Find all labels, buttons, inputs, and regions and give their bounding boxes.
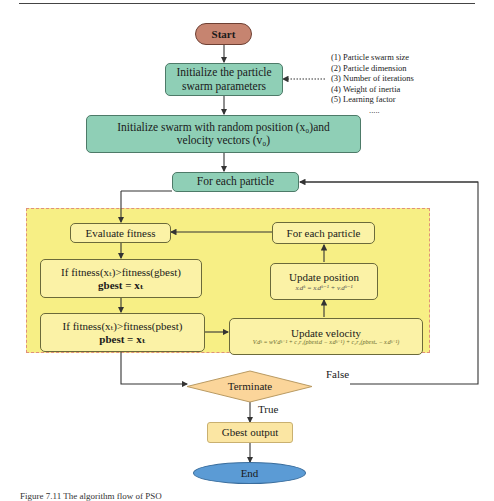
false-edge-label: False bbox=[326, 368, 349, 380]
init-parameters-line1: Initialize the particle bbox=[176, 66, 271, 79]
figure-caption: Figure 7.11 The algorithm flow of PSO bbox=[20, 491, 162, 501]
pbest-assign-label: pbest = xₜ bbox=[99, 333, 145, 346]
for-each-particle-outer-node: For each particle bbox=[172, 172, 299, 192]
end-label: End bbox=[241, 467, 259, 480]
init-parameters-line2: swarm parameters bbox=[182, 80, 266, 93]
parameter-item: (5) Learning factor bbox=[331, 94, 414, 105]
parameter-item: (2) Particle dimension bbox=[331, 63, 414, 74]
gbest-output-label: Gbest output bbox=[222, 426, 279, 439]
end-node: End bbox=[193, 462, 306, 484]
update-velocity-node: Update velocity Vᵢdᵏ = wVᵢdᵏ⁻¹ + c₁r₁(pb… bbox=[229, 318, 423, 355]
init-swarm-line1: Initialize swarm with random position (x… bbox=[117, 121, 330, 134]
init-swarm-line2: velocity vectors (v₀) bbox=[177, 134, 270, 147]
for-each-particle-outer-label: For each particle bbox=[197, 175, 274, 188]
gbest-condition-label: If fitness(xₜ)>fitness(gbest) bbox=[61, 266, 181, 279]
pbest-condition-node: If fitness(xₜ)>fitness(pbest) pbest = xₜ bbox=[40, 313, 205, 352]
for-each-particle-inner-label: For each particle bbox=[287, 227, 361, 240]
parameter-item: (4) Weight of inertia bbox=[331, 84, 414, 95]
parameter-item: (1) Particle swarm size bbox=[331, 52, 414, 63]
parameter-item: (3) Number of iterations bbox=[331, 73, 414, 84]
init-swarm-node: Initialize swarm with random position (x… bbox=[86, 115, 361, 153]
evaluate-fitness-label: Evaluate fitness bbox=[86, 227, 156, 240]
parameter-list: (1) Particle swarm size (2) Particle dim… bbox=[331, 52, 414, 116]
gbest-condition-node: If fitness(xₜ)>fitness(gbest) gbest = xₜ bbox=[40, 259, 202, 298]
parameter-ellipsis: ..... bbox=[331, 105, 414, 116]
start-label: Start bbox=[212, 28, 236, 41]
update-position-label: Update position bbox=[289, 271, 359, 284]
start-node: Start bbox=[195, 23, 252, 45]
update-velocity-formula: Vᵢdᵏ = wVᵢdᵏ⁻¹ + c₁r₁(pbestᵢd − xᵢdᵏ⁻¹) … bbox=[253, 339, 400, 346]
init-parameters-node: Initialize the particle swarm parameters bbox=[165, 63, 283, 96]
gbest-assign-label: gbest = xₜ bbox=[98, 279, 144, 292]
update-velocity-label: Update velocity bbox=[291, 327, 361, 340]
update-position-node: Update position xᵢdᵏ = xᵢdᵏ⁻¹ + vᵢdᵏ⁻¹ bbox=[270, 263, 378, 300]
gbest-output-node: Gbest output bbox=[207, 422, 293, 443]
evaluate-fitness-node: Evaluate fitness bbox=[70, 223, 171, 243]
for-each-particle-inner-node: For each particle bbox=[272, 222, 375, 244]
pbest-condition-label: If fitness(xₜ)>fitness(pbest) bbox=[63, 320, 183, 333]
true-edge-label: True bbox=[258, 403, 278, 415]
update-position-formula: xᵢdᵏ = xᵢdᵏ⁻¹ + vᵢdᵏ⁻¹ bbox=[295, 284, 352, 292]
terminate-label: Terminate bbox=[228, 380, 272, 393]
terminate-label-wrap: Terminate bbox=[210, 376, 290, 396]
